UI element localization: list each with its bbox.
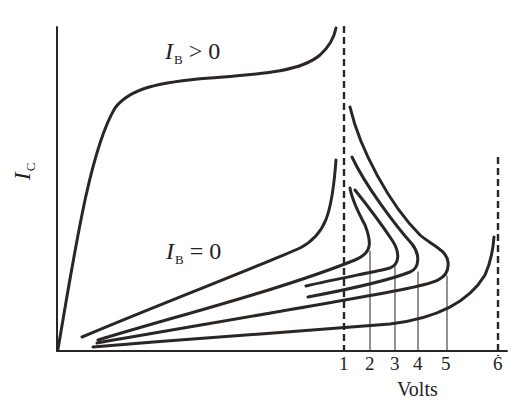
x-tick-2: 2: [365, 353, 375, 375]
x-tick-3: 3: [390, 353, 400, 375]
x-tick-6: 6: [493, 353, 503, 375]
x-tick-5: 5: [441, 353, 451, 375]
label-ib-zero: IB = 0: [166, 238, 221, 265]
curve-ib-positive: [58, 28, 336, 349]
curve-4v: [308, 157, 418, 297]
curves-canvas: [0, 0, 522, 410]
curve-6v: [93, 237, 494, 347]
y-axis-label: IC: [9, 163, 36, 181]
transistor-characteristic-figure: IB > 0 IB = 0 IC 1 2 3 4 5 6 Volts: [0, 0, 522, 410]
x-axis-label: Volts: [397, 378, 438, 401]
x-tick-4: 4: [413, 353, 423, 375]
label-ib-positive: IB > 0: [165, 38, 220, 65]
x-tick-1: 1: [339, 353, 349, 375]
